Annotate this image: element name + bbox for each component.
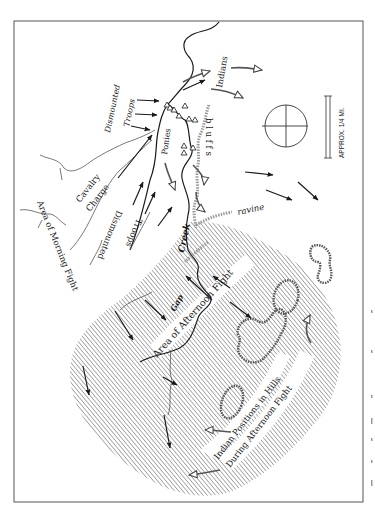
- cut-off-caption-edge: [371, 310, 373, 486]
- scale-bar-label: APPROX. 1/4 MI.: [338, 107, 345, 158]
- battle-map: APPROX. 1/4 MI. Dismounted Troops Ponies…: [0, 0, 375, 512]
- label-bluffs: b l u f f s: [204, 118, 214, 156]
